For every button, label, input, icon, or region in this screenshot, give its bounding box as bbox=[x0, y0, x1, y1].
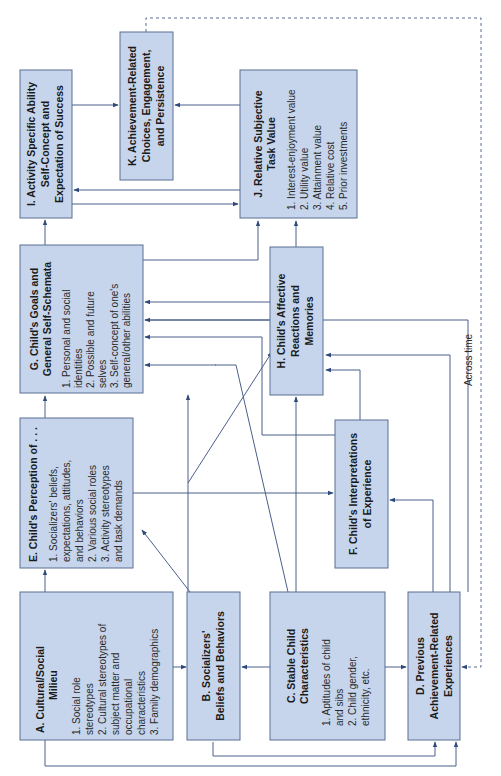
svg-text:Expectation of Success: Expectation of Success bbox=[53, 85, 65, 203]
svg-text:Memories: Memories bbox=[303, 296, 315, 345]
svg-text:Choices, Engagement,: Choices, Engagement, bbox=[140, 50, 152, 163]
eccles-expectancy-value-diagram: A. Cultural/Social Milieu 1. Social role… bbox=[0, 0, 501, 776]
svg-text:Reactions and: Reactions and bbox=[289, 285, 301, 357]
svg-text:and Persistence: and Persistence bbox=[154, 66, 166, 147]
svg-text:Experiences: Experiences bbox=[442, 635, 454, 697]
box-c-stable-child-characteristics: C. Stable Child Characteristics 1. Aptit… bbox=[270, 592, 385, 740]
box-d-previous-achievement-experiences: D. Previous Achievement-Related Experien… bbox=[408, 592, 460, 740]
svg-text:2. Various social roles: 2. Various social roles bbox=[87, 465, 98, 562]
svg-text:occupational: occupational bbox=[123, 679, 134, 735]
box-h-affective-reactions-memories: H. Child's Affective Reactions and Memor… bbox=[270, 247, 323, 395]
svg-text:1. Social role: 1. Social role bbox=[71, 677, 82, 735]
svg-text:and task demands: and task demands bbox=[113, 480, 124, 562]
svg-text:K. Achievement-Related: K. Achievement-Related bbox=[126, 46, 138, 166]
box-j-subjective-task-value: J. Relative Subjective Task Value 1. Int… bbox=[240, 70, 357, 218]
svg-text:J. Relative Subjective: J. Relative Subjective bbox=[252, 90, 264, 198]
svg-text:and behaviors: and behaviors bbox=[74, 499, 85, 562]
svg-text:B. Socializers': B. Socializers' bbox=[200, 631, 212, 702]
across-time-label: Across time bbox=[463, 333, 474, 386]
svg-text:Achievement-Related: Achievement-Related bbox=[428, 613, 440, 720]
svg-text:Characteristics: Characteristics bbox=[298, 628, 310, 704]
svg-text:Milieu: Milieu bbox=[47, 670, 59, 700]
svg-text:3. Activity stereotypes: 3. Activity stereotypes bbox=[100, 465, 111, 562]
svg-text:3. Family demographics: 3. Family demographics bbox=[149, 629, 160, 735]
svg-text:E. Child's Perception of . . .: E. Child's Perception of . . . bbox=[27, 427, 39, 562]
svg-text:H. Child's Affective: H. Child's Affective bbox=[275, 273, 287, 368]
svg-text:Beliefs and Behaviors: Beliefs and Behaviors bbox=[214, 611, 226, 721]
box-b-socializers-beliefs: B. Socializers' Beliefs and Behaviors bbox=[187, 592, 240, 740]
svg-text:G. Child's Goals and: G. Child's Goals and bbox=[28, 268, 40, 370]
svg-text:1. Socializers' beliefs,: 1. Socializers' beliefs, bbox=[48, 466, 59, 562]
svg-text:1. Personal and social: 1. Personal and social bbox=[61, 290, 72, 388]
svg-text:I. Activity Specific Ability: I. Activity Specific Ability bbox=[25, 82, 37, 206]
svg-text:3. Attainment value: 3. Attainment value bbox=[312, 125, 323, 210]
svg-text:characteristics: characteristics bbox=[136, 671, 147, 735]
svg-text:identities: identities bbox=[73, 349, 84, 388]
svg-text:selves: selves bbox=[97, 360, 108, 388]
svg-text:General Self-Schemata: General Self-Schemata bbox=[41, 262, 53, 377]
svg-text:5. Prior investments: 5. Prior investments bbox=[338, 122, 349, 210]
svg-text:D. Previous: D. Previous bbox=[414, 637, 426, 695]
svg-text:2. Utility value: 2. Utility value bbox=[299, 147, 310, 210]
svg-text:4. Relative cost: 4. Relative cost bbox=[325, 141, 336, 210]
svg-text:ethnicity, etc.: ethnicity, etc. bbox=[360, 668, 371, 726]
svg-text:of Experience: of Experience bbox=[361, 459, 373, 528]
svg-text:Task Value: Task Value bbox=[265, 117, 277, 171]
box-k-achievement-choices: K. Achievement-Related Choices, Engageme… bbox=[120, 32, 173, 180]
svg-text:stereotypes: stereotypes bbox=[84, 683, 95, 735]
svg-text:2. Possible and future: 2. Possible and future bbox=[85, 291, 96, 388]
box-f-childs-interpretations: F. Child's Interpretations of Experience bbox=[335, 420, 388, 568]
svg-text:expectations, attitudes,: expectations, attitudes, bbox=[61, 460, 72, 562]
svg-text:2. Child gender,: 2. Child gender, bbox=[347, 656, 358, 726]
svg-text:and sibs: and sibs bbox=[334, 689, 345, 726]
box-a-cultural-social-milieu: A. Cultural/Social Milieu 1. Social role… bbox=[20, 592, 173, 740]
svg-text:1. Interest-enjoyment value: 1. Interest-enjoyment value bbox=[286, 89, 297, 210]
svg-text:C. Stable Child: C. Stable Child bbox=[285, 629, 297, 703]
svg-text:general/other abilities: general/other abilities bbox=[121, 293, 132, 388]
box-a-title: A. Cultural/Social bbox=[34, 646, 46, 733]
svg-text:2. Cultural stereotypes of: 2. Cultural stereotypes of bbox=[97, 624, 108, 735]
box-g-childs-goals-self-schemata: G. Child's Goals and General Self-Schema… bbox=[20, 245, 143, 393]
svg-text:1. Aptitudes of child: 1. Aptitudes of child bbox=[321, 639, 332, 726]
svg-text:3. Self-concept of one's: 3. Self-concept of one's bbox=[109, 284, 120, 388]
svg-text:F. Child's Interpretations: F. Child's Interpretations bbox=[347, 433, 359, 555]
svg-text:subject matter and: subject matter and bbox=[110, 653, 121, 735]
box-e-childs-perception: E. Child's Perception of . . . 1. Social… bbox=[20, 418, 133, 568]
box-i-ability-self-concept: I. Activity Specific Ability Self-Concep… bbox=[20, 70, 72, 218]
svg-text:Self-Concept and: Self-Concept and bbox=[39, 101, 51, 187]
